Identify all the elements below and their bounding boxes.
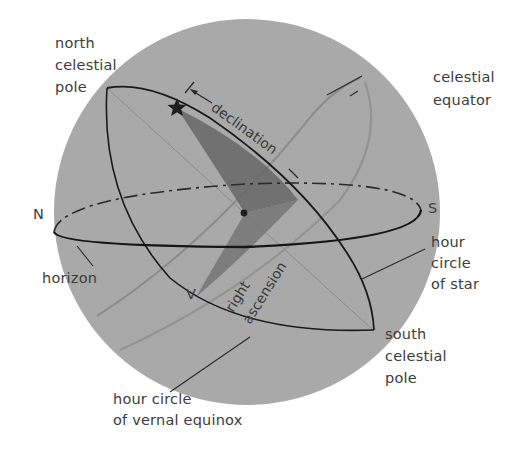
label-vernal-equinox: V <box>186 285 196 303</box>
label-north-celestial-pole: north celestial pole <box>55 32 117 98</box>
label-south: S <box>428 199 437 217</box>
label-hour-circle-of-star: hour circle of star <box>431 232 479 295</box>
label-hour-circle-of-vernal-equinox: hour circle of vernal equinox <box>113 389 242 431</box>
celestial-sphere-diagram: north celestial pole celestial equator N… <box>0 0 531 450</box>
label-celestial-equator: celestial equator <box>433 66 495 112</box>
label-north: N <box>33 205 44 223</box>
center-dot <box>241 210 248 217</box>
label-south-celestial-pole: south celestial pole <box>385 323 447 389</box>
label-horizon: horizon <box>42 269 97 287</box>
